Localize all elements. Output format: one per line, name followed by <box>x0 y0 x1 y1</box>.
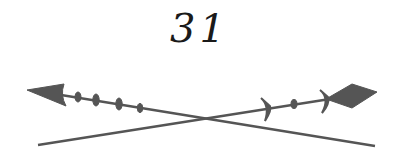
right-arrow-icon <box>38 84 377 145</box>
crossed-arrows-ornament <box>0 0 399 163</box>
